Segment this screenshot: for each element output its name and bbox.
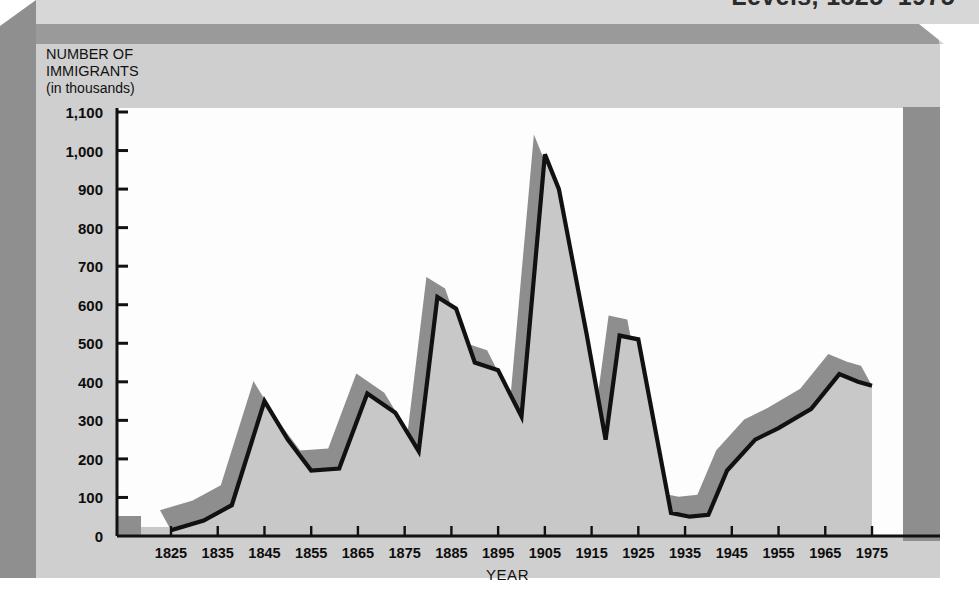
y-axis-tick-label: 300 xyxy=(78,412,103,429)
plot-area: 01002003004005006007008009001,0001,100 1… xyxy=(0,0,979,603)
x-axis-tick-label: 1825 xyxy=(155,545,187,561)
x-axis-tick-label: 1925 xyxy=(622,545,654,561)
x-axis-tick-label: 1955 xyxy=(762,545,794,561)
x-axis-tick-label: 1875 xyxy=(389,545,421,561)
y-axis-tick-label: 600 xyxy=(78,297,103,314)
x-axis-tick-label: 1865 xyxy=(342,545,374,561)
x-axis-tick-label: 1895 xyxy=(482,545,514,561)
y-axis-tick-label: 900 xyxy=(78,181,103,198)
y-axis-tick-label: 800 xyxy=(78,220,103,237)
y-axis-tick-label: 1,100 xyxy=(65,104,103,121)
chart-svg: 01002003004005006007008009001,0001,100 1… xyxy=(0,0,979,603)
y-axis-tick-label: 400 xyxy=(78,374,103,391)
y-axis-tick-label: 500 xyxy=(78,335,103,352)
y-axis-tick-label: 200 xyxy=(78,451,103,468)
x-axis-tick-label: 1905 xyxy=(529,545,561,561)
y-axis-tick-label: 700 xyxy=(78,258,103,275)
x-axis-tick-label: 1915 xyxy=(575,545,607,561)
x-axis-tick-label: 1945 xyxy=(716,545,748,561)
x-axis-tick-label: 1885 xyxy=(435,545,467,561)
chart-figure: Levels, 1825–1975 NUMBER OF IMMIGRANTS (… xyxy=(0,0,979,603)
x-axis-tick-label: 1965 xyxy=(809,545,841,561)
x-axis-tick-label: 1855 xyxy=(295,545,327,561)
x-axis-title-text: YEAR xyxy=(486,566,529,583)
x-axis-title: YEAR xyxy=(0,566,979,583)
x-axis-tick-label: 1835 xyxy=(202,545,234,561)
y-axis-tick-label: 1,000 xyxy=(65,143,103,160)
y-axis-tick-label: 100 xyxy=(78,489,103,506)
x-axis-tick-label: 1935 xyxy=(669,545,701,561)
y-axis-tick-label: 0 xyxy=(95,528,103,545)
x-axis-tick-label: 1845 xyxy=(248,545,280,561)
x-axis-tick-label: 1975 xyxy=(856,545,888,561)
